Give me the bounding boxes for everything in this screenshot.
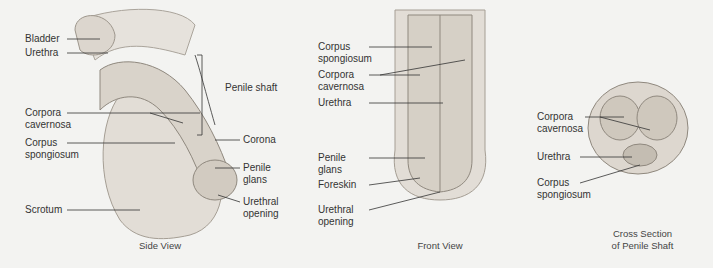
front-view-drawing bbox=[369, 10, 486, 210]
label-scrotum: Scrotum bbox=[25, 204, 62, 216]
side-view-drawing bbox=[67, 9, 240, 238]
label-corona: Corona bbox=[243, 134, 276, 146]
caption-side-view: Side View bbox=[120, 240, 200, 252]
label-penile-shaft: Penile shaft bbox=[225, 82, 277, 94]
label-foreskin: Foreskin bbox=[318, 179, 356, 191]
label-penile-glans-front: Penile glans bbox=[318, 152, 346, 176]
caption-cross-section: Cross Section of Penile Shaft bbox=[595, 228, 690, 252]
label-corpora-cavernosa-side: Corpora cavernosa bbox=[25, 107, 71, 131]
label-corpora-cavernosa-cross: Corpora cavernosa bbox=[537, 111, 583, 135]
label-urethra-cross: Urethra bbox=[537, 151, 570, 163]
cross-section-drawing bbox=[580, 82, 688, 183]
label-corpora-cavernosa-front: Corpora cavernosa bbox=[318, 69, 364, 93]
label-urethral-opening-side: Urethral opening bbox=[243, 196, 279, 220]
label-bladder: Bladder bbox=[25, 33, 59, 45]
label-corpus-spongiosum-side: Corpus spongiosum bbox=[25, 137, 79, 161]
caption-front-view: Front View bbox=[400, 240, 480, 252]
label-urethra-front: Urethra bbox=[318, 97, 351, 109]
label-urethra-side: Urethra bbox=[25, 47, 58, 59]
label-corpus-spongiosum-cross: Corpus spongiosum bbox=[537, 177, 591, 201]
label-penile-glans-side: Penile glans bbox=[243, 162, 271, 186]
label-urethral-opening-front: Urethral opening bbox=[318, 204, 354, 228]
label-corpus-spongiosum-front: Corpus spongiosum bbox=[318, 41, 372, 65]
